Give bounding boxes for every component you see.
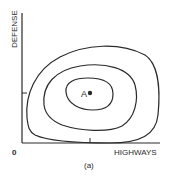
origin-label: 0 <box>12 148 17 157</box>
outer-contour <box>27 46 159 143</box>
x-axis-label: HIGHWAYS <box>114 148 157 157</box>
y-axis-label: DEFENSE <box>10 10 19 48</box>
middle-contour <box>44 65 137 131</box>
point-a-marker <box>88 91 92 95</box>
point-a-label: A <box>81 89 87 99</box>
figure-caption: (a) <box>84 161 94 170</box>
contour-diagram: A DEFENSE 0 HIGHWAYS (a) <box>0 0 171 180</box>
